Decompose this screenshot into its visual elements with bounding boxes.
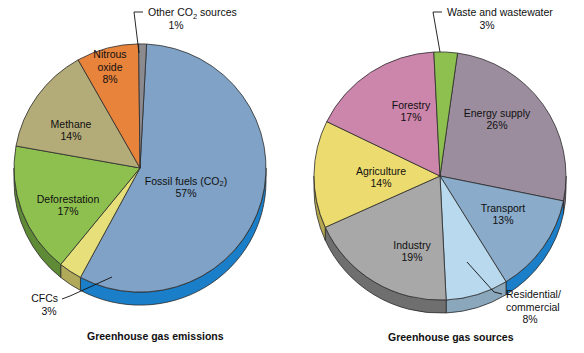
callout-label-text: Residential/	[506, 288, 561, 300]
slice-label-text: 14%	[370, 177, 391, 189]
callout-label-text: 1%	[168, 19, 183, 31]
callout-residential-commercial: Residential/commercial	[506, 288, 561, 313]
callout-label-text: Waste and wastewater	[447, 6, 553, 18]
callout-label-text: Other CO2 sources	[148, 6, 237, 21]
callout-cfcs-value: 3%	[41, 305, 56, 317]
slice-label-text: Nitrous	[93, 48, 126, 60]
leader-waste-and-wastewater	[433, 12, 442, 52]
slice-label-text: Forestry	[392, 99, 431, 111]
callout-waste-and-wastewater: Waste and wastewater	[447, 6, 553, 18]
callout-label-text: 8%	[522, 313, 537, 325]
slice-label-text: Transport	[481, 202, 526, 214]
slice-label-text: Energy supply	[464, 107, 531, 119]
slice-label-text: oxide	[97, 61, 122, 73]
slice-label-text: 57%	[175, 187, 196, 199]
slice-label-text: 17%	[57, 205, 78, 217]
slice-label-text: 8%	[102, 73, 117, 85]
callout-other-co2-sources-value: 1%	[168, 19, 183, 31]
pie-chart-emissions	[14, 44, 266, 305]
slice-label-text: 19%	[401, 251, 422, 263]
callout-waste-and-wastewater-value: 3%	[479, 19, 494, 31]
slice-label-text: 13%	[492, 214, 513, 226]
callout-label-text: 3%	[41, 305, 56, 317]
callout-residential-commercial-value: 8%	[522, 313, 537, 325]
caption-emissions: Greenhouse gas emissions	[87, 330, 224, 342]
slice-label-text: Deforestation	[37, 193, 100, 205]
slice-label-text: 14%	[60, 130, 81, 142]
callout-label-text: CFCs	[31, 292, 58, 304]
figure-canvas: Fossil fuels (CO2)57%Deforestation17%Met…	[0, 0, 584, 353]
callout-other-co2-sources: Other CO2 sources	[148, 6, 237, 21]
slice-label-text: 17%	[400, 111, 421, 123]
pie-chart-sources	[314, 52, 566, 313]
callout-label-text: 3%	[479, 19, 494, 31]
pie-charts-svg: Fossil fuels (CO2)57%Deforestation17%Met…	[0, 0, 584, 353]
callout-label-text: commercial	[506, 301, 560, 313]
slice-label-text: 26%	[486, 119, 507, 131]
callout-cfcs: CFCs	[31, 292, 58, 304]
slice-label-text: Agriculture	[356, 165, 406, 177]
slice-label-text: Industry	[393, 239, 431, 251]
slice-label-text: Methane	[51, 118, 92, 130]
caption-sources: Greenhouse gas sources	[388, 331, 513, 343]
